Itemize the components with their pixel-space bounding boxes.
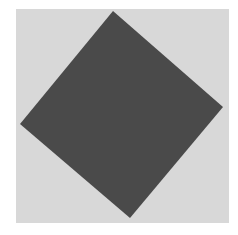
dark-diamond-shape [20, 11, 223, 218]
figure-canvas [0, 0, 238, 235]
